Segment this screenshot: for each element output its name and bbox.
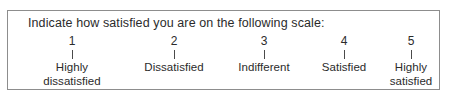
scale-point-number-2: 2 [126, 35, 222, 48]
scale-tick-icon-1 [72, 50, 73, 59]
scale-point-1[interactable]: 1 Highly dissatisfied [24, 35, 120, 88]
scale-point-label-5: Highly satisfied [363, 61, 449, 88]
scale-point-number-5: 5 [363, 35, 449, 48]
question-prompt-text: Indicate how satisfied you are on the fo… [28, 16, 325, 30]
scale-point-label-5-line1: Highly [363, 61, 449, 75]
scale-point-number-1: 1 [24, 35, 120, 48]
scale-point-label-1-line1: Highly [24, 61, 120, 75]
scale-point-label-2: Dissatisfied [126, 61, 222, 75]
scale-tick-icon-2 [174, 50, 175, 59]
scale-tick-icon-3 [264, 50, 265, 59]
likert-scale-row: 1 Highly dissatisfied 2 Dissatisfied 3 I… [8, 35, 439, 89]
scale-point-label-5-line2: satisfied [363, 75, 449, 89]
scale-point-2[interactable]: 2 Dissatisfied [126, 35, 222, 75]
scale-tick-icon-5 [411, 50, 412, 59]
scale-point-label-1-line2: dissatisfied [24, 75, 120, 89]
scale-tick-icon-4 [344, 50, 345, 59]
scale-point-label-2-line1: Dissatisfied [126, 61, 222, 75]
survey-scale-panel: Indicate how satisfied you are on the fo… [7, 10, 440, 90]
scale-point-label-1: Highly dissatisfied [24, 61, 120, 88]
scale-point-5[interactable]: 5 Highly satisfied [363, 35, 449, 88]
